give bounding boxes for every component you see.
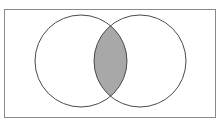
venn-diagram-canvas: [0, 0, 220, 124]
venn-diagram-figure: [0, 0, 220, 124]
